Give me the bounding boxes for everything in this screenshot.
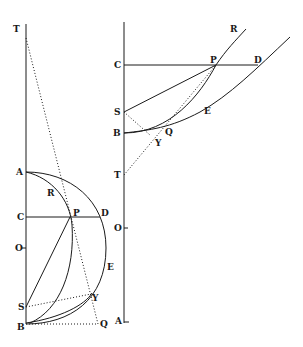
label-left-A: A: [15, 167, 24, 177]
label-right-Y: Y: [154, 138, 162, 148]
label-right-Q: Q: [165, 127, 173, 137]
label-right-E: E: [204, 106, 211, 116]
label-left-B: B: [17, 322, 25, 332]
label-right-R: R: [230, 24, 238, 34]
label-left-E: E: [107, 262, 114, 272]
right-line-SP: [124, 65, 216, 112]
label-right-B: B: [113, 128, 121, 138]
left-dotted-TQ: [26, 38, 98, 324]
label-right-P: P: [210, 55, 217, 65]
left-line-SP: [26, 217, 70, 307]
label-left-T: T: [13, 24, 20, 34]
right-curve-BQED: [124, 37, 290, 133]
label-left-O: O: [15, 243, 23, 253]
label-right-O: O: [114, 223, 122, 233]
label-left-S: S: [18, 302, 25, 312]
label-left-R: R: [47, 188, 55, 198]
geometry-diagram: T A R C P D O E Y S B Q A R C P D S E B …: [0, 0, 303, 347]
label-right-C: C: [114, 60, 121, 70]
label-right-T: T: [114, 170, 121, 180]
label-right-S: S: [114, 107, 121, 117]
label-left-C: C: [17, 212, 24, 222]
label-left-Q: Q: [100, 319, 108, 329]
label-left-A2: A: [114, 316, 123, 326]
label-right-D: D: [254, 55, 262, 65]
label-left-P: P: [73, 208, 80, 218]
label-left-D: D: [101, 208, 109, 218]
right-dotted-TP: [124, 65, 216, 175]
label-left-Y: Y: [91, 293, 99, 303]
